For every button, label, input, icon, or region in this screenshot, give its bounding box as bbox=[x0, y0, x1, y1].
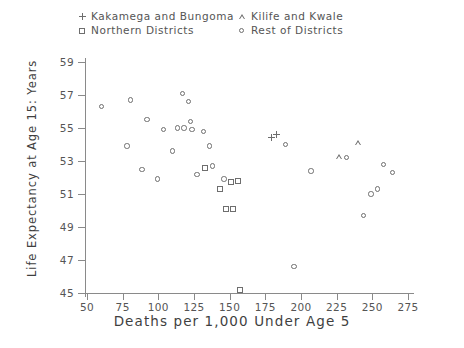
data-point bbox=[139, 167, 144, 172]
x-tick-label: 250 bbox=[352, 302, 392, 313]
data-point bbox=[230, 206, 236, 212]
data-point bbox=[223, 206, 229, 212]
x-tick bbox=[230, 293, 231, 300]
x-axis-title: Deaths per 1,000 Under Age 5 bbox=[0, 313, 464, 329]
y-tick bbox=[78, 293, 86, 294]
circle-marker-icon bbox=[238, 24, 251, 37]
y-axis-line bbox=[85, 58, 86, 297]
legend-item-northern-districts: Northern Districts bbox=[78, 24, 194, 37]
data-point bbox=[194, 172, 199, 177]
x-tick bbox=[87, 293, 88, 300]
y-tick-label: 57 bbox=[52, 90, 74, 101]
x-tick-label: 225 bbox=[317, 302, 357, 313]
legend-item-kakamega-and-bungoma: Kakamega and Bungoma bbox=[78, 10, 234, 23]
x-tick-label: 200 bbox=[281, 302, 321, 313]
x-tick bbox=[337, 293, 338, 300]
data-point bbox=[210, 163, 215, 168]
x-tick bbox=[123, 293, 124, 300]
data-point bbox=[368, 191, 373, 196]
data-point bbox=[237, 287, 243, 293]
data-point bbox=[217, 186, 223, 192]
data-point bbox=[124, 143, 129, 148]
x-tick bbox=[158, 293, 159, 300]
y-tick-label: 53 bbox=[52, 156, 74, 167]
data-point bbox=[336, 152, 344, 159]
legend-label: Northern Districts bbox=[91, 24, 194, 37]
y-tick-label: 45 bbox=[52, 288, 74, 299]
plus-marker-icon bbox=[78, 10, 91, 23]
x-tick-label: 125 bbox=[174, 302, 214, 313]
scatter-chart: Kakamega and Bungoma Northern Districts … bbox=[0, 0, 464, 348]
data-point bbox=[201, 129, 206, 134]
data-point bbox=[189, 127, 194, 132]
y-tick bbox=[78, 62, 86, 63]
data-point bbox=[375, 186, 380, 191]
legend-label: Rest of Districts bbox=[251, 24, 343, 37]
y-tick-label: 49 bbox=[52, 222, 74, 233]
data-point bbox=[170, 148, 175, 153]
data-point bbox=[175, 125, 180, 130]
y-tick-label: 51 bbox=[52, 189, 74, 200]
legend-label: Kilife and Kwale bbox=[251, 10, 343, 23]
data-point bbox=[221, 176, 226, 181]
x-tick bbox=[372, 293, 373, 300]
x-tick bbox=[408, 293, 409, 300]
x-tick-label: 275 bbox=[388, 302, 428, 313]
square-marker-icon bbox=[78, 24, 91, 37]
data-point bbox=[291, 264, 296, 269]
triangle-marker-icon bbox=[238, 10, 251, 23]
data-point bbox=[128, 97, 133, 102]
y-tick bbox=[78, 260, 86, 261]
y-tick bbox=[78, 128, 86, 129]
legend-item-kilife-and-kwale: Kilife and Kwale bbox=[238, 10, 343, 23]
data-point bbox=[273, 131, 280, 138]
y-tick-label: 59 bbox=[52, 57, 74, 68]
x-tick-label: 100 bbox=[138, 302, 178, 313]
y-tick bbox=[78, 194, 86, 195]
x-axis-line bbox=[85, 293, 414, 294]
y-tick bbox=[78, 161, 86, 162]
data-point bbox=[354, 139, 362, 146]
chart-legend: Kakamega and Bungoma Northern Districts … bbox=[0, 10, 464, 42]
data-point bbox=[202, 165, 208, 171]
data-point bbox=[308, 168, 313, 173]
legend-item-rest-of-districts: Rest of Districts bbox=[238, 24, 343, 37]
legend-label: Kakamega and Bungoma bbox=[91, 10, 234, 23]
y-tick-label: 55 bbox=[52, 123, 74, 134]
x-tick-label: 75 bbox=[103, 302, 143, 313]
x-tick bbox=[301, 293, 302, 300]
x-tick-label: 150 bbox=[210, 302, 250, 313]
plot-area bbox=[87, 62, 408, 293]
x-tick bbox=[194, 293, 195, 300]
data-point bbox=[181, 125, 186, 130]
data-point bbox=[235, 178, 241, 184]
y-axis-title: Life Expectancy at Age 15: Years bbox=[25, 77, 39, 277]
data-point bbox=[228, 179, 234, 185]
y-tick bbox=[78, 227, 86, 228]
x-tick-label: 175 bbox=[245, 302, 285, 313]
y-tick-label: 47 bbox=[52, 255, 74, 266]
y-tick bbox=[78, 95, 86, 96]
x-tick-label: 50 bbox=[67, 302, 107, 313]
x-tick bbox=[265, 293, 266, 300]
